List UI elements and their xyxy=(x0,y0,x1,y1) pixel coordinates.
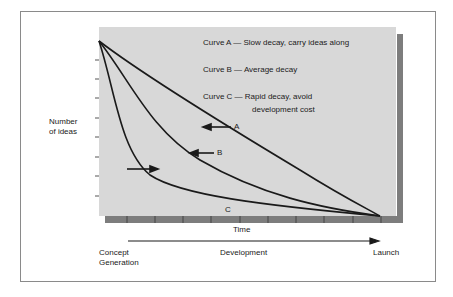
legend-curve-b: Curve B — Average decay xyxy=(203,65,297,74)
x-axis-ticks xyxy=(127,216,381,223)
stage-start-line2: Generation xyxy=(99,258,139,268)
time-arrow xyxy=(128,238,379,244)
y-axis-label-line2: of ideas xyxy=(49,127,77,137)
y-axis-label-line1: Number xyxy=(49,117,77,127)
curve-label-c: C xyxy=(225,205,231,214)
stage-launch: Launch xyxy=(373,248,399,258)
stage-concept-generation: Concept Generation xyxy=(99,248,139,268)
y-axis-label: Number of ideas xyxy=(49,117,77,137)
legend-curve-c-cont: development cost xyxy=(252,105,315,114)
stage-start-line1: Concept xyxy=(99,248,139,258)
y-axis-ticks xyxy=(95,60,99,196)
curve-label-b: B xyxy=(217,148,222,157)
curve-label-a: A xyxy=(234,122,239,131)
x-axis-label: Time xyxy=(233,225,250,234)
arrow-b xyxy=(190,150,214,156)
legend-curve-c: Curve C — Rapid decay, avoid xyxy=(203,92,312,101)
legend-curve-a: Curve A — Slow decay, carry ideas along xyxy=(203,38,349,47)
stage-development: Development xyxy=(220,248,267,258)
